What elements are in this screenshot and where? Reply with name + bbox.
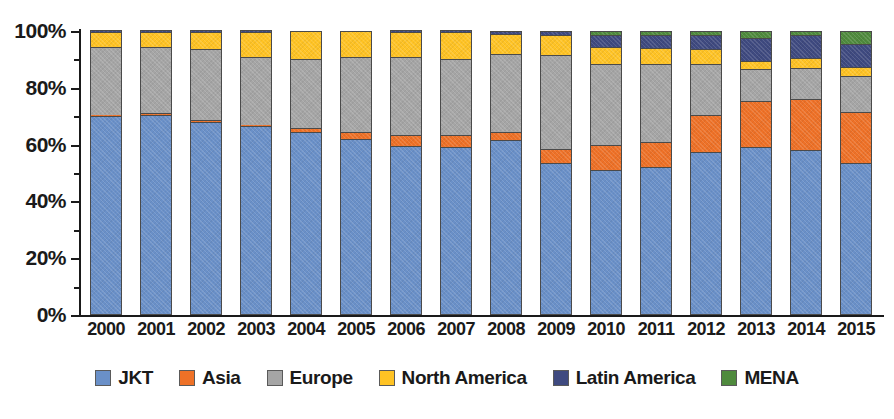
bar-segment-latin-america	[740, 38, 772, 61]
y-axis-tick-label: 0%	[37, 303, 66, 327]
bar-segment-latin-america	[640, 35, 672, 48]
chart-legend: JKTAsiaEuropeNorth AmericaLatin AmericaM…	[0, 358, 894, 398]
bar-segment-latin-america	[90, 30, 122, 32]
legend-swatch-icon	[553, 370, 569, 386]
axis-tick	[74, 116, 80, 118]
bar-segment-north-america	[140, 32, 172, 46]
bar-segment-asia	[390, 135, 422, 146]
legend-swatch-icon	[95, 370, 111, 386]
bar-2010	[590, 31, 622, 315]
bar-2004	[290, 31, 322, 315]
legend-label: Asia	[202, 367, 241, 389]
bar-segment-jkt	[590, 170, 622, 315]
legend-swatch-icon	[379, 370, 395, 386]
x-axis-tick-label: 2014	[781, 319, 831, 340]
bar-segment-europe	[440, 59, 472, 134]
bar-segment-europe	[690, 64, 722, 115]
bar-segment-north-america	[590, 47, 622, 64]
bar-2012	[690, 31, 722, 315]
bar-segment-asia	[340, 132, 372, 139]
x-axis-tick-label: 2009	[531, 319, 581, 340]
x-axis-tick-label: 2011	[631, 319, 681, 340]
x-axis-tick-label: 2007	[431, 319, 481, 340]
bar-segment-jkt	[790, 150, 822, 315]
bar-2013	[740, 31, 772, 315]
bar-segment-mena	[640, 31, 672, 35]
bar-segment-latin-america	[490, 31, 522, 34]
legend-label: MENA	[744, 367, 798, 389]
legend-label: North America	[402, 367, 527, 389]
axis-tick	[71, 258, 80, 260]
bar-segment-north-america	[640, 48, 672, 64]
bar-segment-asia	[590, 145, 622, 171]
legend-item-europe[interactable]: Europe	[267, 367, 353, 389]
axis-tick	[71, 31, 80, 33]
legend-item-mena[interactable]: MENA	[721, 367, 798, 389]
bar-segment-jkt	[190, 122, 222, 315]
legend-label: Europe	[290, 367, 353, 389]
bar-segment-jkt	[540, 163, 572, 315]
bar-2000	[90, 31, 122, 315]
bar-segment-jkt	[440, 147, 472, 315]
bar-segment-north-america	[840, 67, 872, 77]
legend-item-jkt[interactable]: JKT	[95, 367, 153, 389]
bar-2007	[440, 31, 472, 315]
x-axis-tick-label: 2013	[731, 319, 781, 340]
bar-segment-mena	[740, 31, 772, 38]
bar-2015	[840, 31, 872, 315]
bar-segment-north-america	[190, 32, 222, 49]
bar-segment-asia	[790, 99, 822, 150]
x-axis-tick-label: 2000	[81, 319, 131, 340]
bar-segment-latin-america	[590, 35, 622, 46]
bar-2001	[140, 31, 172, 315]
bar-segment-asia	[540, 149, 572, 163]
bar-segment-latin-america	[240, 30, 272, 32]
axis-tick	[74, 59, 80, 61]
bar-segment-jkt	[690, 152, 722, 315]
axis-tick	[74, 287, 80, 289]
axis-tick	[71, 315, 80, 317]
bar-segment-jkt	[340, 139, 372, 315]
bar-segment-europe	[490, 54, 522, 132]
bars-container	[81, 31, 881, 315]
axis-tick	[74, 230, 80, 232]
x-axis-line	[79, 315, 884, 317]
x-axis-tick-label: 2008	[481, 319, 531, 340]
bar-segment-jkt	[840, 163, 872, 315]
bar-segment-europe	[240, 57, 272, 125]
bar-segment-europe	[790, 68, 822, 99]
bar-segment-north-america	[390, 32, 422, 56]
bar-segment-jkt	[90, 116, 122, 315]
bar-segment-north-america	[240, 32, 272, 56]
bar-segment-europe	[740, 69, 772, 100]
x-axis-tick-label: 2006	[381, 319, 431, 340]
bar-segment-latin-america	[190, 30, 222, 32]
bar-segment-jkt	[290, 132, 322, 315]
x-axis-tick-label: 2010	[581, 319, 631, 340]
y-axis-tick-label: 40%	[25, 189, 66, 213]
bar-segment-europe	[90, 47, 122, 115]
bar-segment-mena	[690, 31, 722, 35]
bar-segment-north-america	[340, 31, 372, 57]
bar-segment-jkt	[140, 115, 172, 315]
x-axis-labels: 2000200120022003200420052006200720082009…	[81, 319, 881, 345]
bar-segment-asia	[440, 135, 472, 148]
bar-2011	[640, 31, 672, 315]
legend-item-latin-america[interactable]: Latin America	[553, 367, 696, 389]
x-axis-tick-label: 2004	[281, 319, 331, 340]
legend-item-asia[interactable]: Asia	[179, 367, 241, 389]
bar-segment-mena	[790, 31, 822, 35]
legend-label: JKT	[118, 367, 153, 389]
legend-item-north-america[interactable]: North America	[379, 367, 527, 389]
bar-segment-latin-america	[390, 30, 422, 32]
axis-tick	[71, 201, 80, 203]
bar-segment-north-america	[690, 49, 722, 63]
bar-segment-north-america	[440, 32, 472, 59]
bar-segment-north-america	[90, 32, 122, 46]
y-axis-tick-label: 60%	[25, 133, 66, 157]
bar-segment-mena	[840, 31, 872, 44]
bar-2005	[340, 31, 372, 315]
bar-segment-europe	[640, 64, 672, 142]
bar-2003	[240, 31, 272, 315]
stacked-bar-chart: 0%20%40%60%80%100% 200020012002200320042…	[0, 0, 894, 419]
